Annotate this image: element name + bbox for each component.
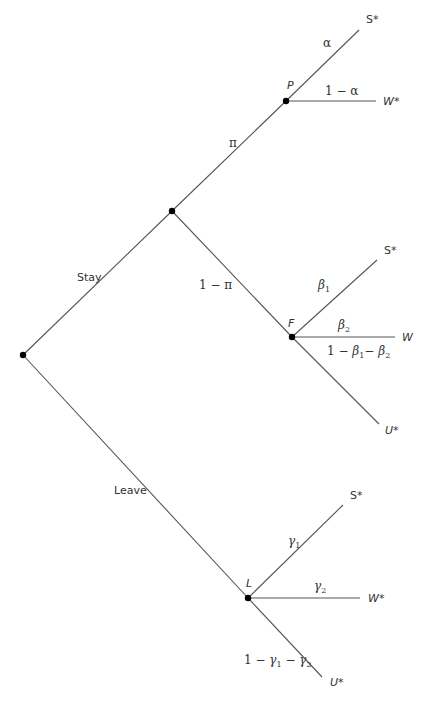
branch-gamma1 (248, 505, 343, 598)
label-beta2: β2 (338, 319, 350, 334)
outcome-f-s: S* (384, 245, 396, 256)
label-alpha: α (323, 37, 331, 49)
label-beta1: β1 (318, 279, 330, 294)
outcome-f-w: W (402, 332, 413, 343)
branch-beta1 (292, 260, 377, 337)
branch-leave (23, 355, 248, 598)
label-one-minus-gammas: 1 − γ1 − γ2 (244, 654, 312, 669)
outcome-p-s: S* (366, 14, 378, 25)
label-one-minus-alpha: 1 − α (325, 85, 358, 97)
node-label-p: P (287, 80, 294, 91)
node-l (245, 595, 251, 601)
outcome-p-w: W* (383, 96, 399, 107)
outcome-l-w: W* (368, 593, 384, 604)
label-stay: Stay (77, 272, 102, 283)
label-gamma1: γ1 (288, 535, 300, 550)
outcome-f-u: U* (385, 425, 399, 436)
node-label-f: F (288, 318, 294, 329)
label-leave: Leave (114, 485, 147, 496)
node-p (283, 98, 289, 104)
outcome-l-u: U* (330, 677, 344, 688)
label-one-minus-pi: 1 − π (199, 279, 232, 291)
root-node (20, 352, 26, 358)
branch-pi (172, 101, 286, 211)
stay-node (169, 208, 175, 214)
node-f (289, 334, 295, 340)
label-gamma2: γ2 (314, 580, 326, 595)
outcome-l-s: S* (350, 490, 362, 501)
branch-one-minus-pi (172, 211, 292, 337)
label-one-minus-betas: 1 − β1− β2 (327, 345, 390, 360)
label-pi: π (229, 137, 237, 149)
node-label-l: L (246, 578, 252, 589)
